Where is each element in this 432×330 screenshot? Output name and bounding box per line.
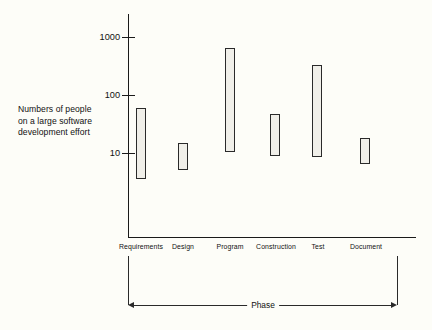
x-tick-label-test: Test <box>311 243 324 250</box>
bar-construction[interactable] <box>270 114 280 156</box>
phase-bracket-left-tick <box>128 256 129 305</box>
y-axis-label: Numbers of people on a large software de… <box>18 104 122 139</box>
x-axis-line <box>128 237 416 238</box>
y-axis-label-line-1: Numbers of people <box>18 104 122 116</box>
x-tick-label-design: Design <box>172 243 194 250</box>
bar-design[interactable] <box>178 143 188 171</box>
y-tick-label-10-wrap: 10 <box>78 148 120 159</box>
x-tick-label-document: Document <box>350 243 382 250</box>
x-tick-label-requirements: Requirements <box>119 243 163 250</box>
phase-bracket-right-tick <box>397 256 398 305</box>
y-tick-100 <box>122 95 135 96</box>
bar-requirements[interactable] <box>136 108 146 180</box>
x-tick-label-program: Program <box>216 243 243 250</box>
y-axis-label-line-2: on a large software <box>18 116 122 128</box>
x-axis-title: Phase <box>247 300 279 310</box>
x-tick-label-construction: Construction <box>256 243 296 250</box>
chart-canvas: Numbers of people on a large software de… <box>0 0 432 330</box>
y-tick-1000 <box>122 37 135 38</box>
y-axis-line <box>128 14 129 238</box>
bar-test[interactable] <box>312 65 322 157</box>
bar-program[interactable] <box>225 48 235 152</box>
y-tick-label-100: 100 <box>105 90 120 100</box>
phase-arrow-left-icon <box>128 302 134 308</box>
y-tick-label-10: 10 <box>110 148 120 158</box>
bar-document[interactable] <box>360 138 370 164</box>
y-tick-label-1000: 1000 <box>100 32 120 42</box>
y-tick-10 <box>122 153 135 154</box>
phase-arrow-right-icon <box>391 302 397 308</box>
y-axis-label-line-3: development effort <box>18 127 122 139</box>
y-tick-label-1000-wrap: 1000 <box>78 32 120 43</box>
y-tick-label-100-wrap: 100 <box>78 90 120 101</box>
